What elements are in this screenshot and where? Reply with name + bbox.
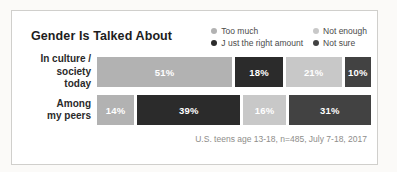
bar-segment-too-much: 14% (97, 95, 134, 125)
bar-segment-not-sure: 31% (289, 95, 371, 125)
bar-segment-not-enough: 21% (286, 57, 342, 87)
category-label-line1: In culture / (31, 53, 91, 66)
category-label-line1: Among (31, 98, 91, 111)
bar-segment-not-enough: 16% (243, 95, 285, 125)
legend-item-not-enough: Not enough (313, 26, 367, 36)
category-label: In culture / society today (31, 53, 91, 91)
bar-segment-not-sure: 10% (345, 57, 372, 87)
legend-item-just-right-amount: J ust the right amount (211, 38, 303, 48)
legend-label: Not sure (323, 38, 355, 48)
chart-title: Gender Is Talked About (31, 26, 172, 43)
chart-card: Gender Is Talked About Too much Not enou… (11, 10, 378, 165)
bar-segment-too-much: 51% (97, 57, 232, 87)
bar-row-among-peers: Among my peers 14% 39% 16% 31% (31, 95, 371, 125)
legend-dot-icon (313, 28, 319, 34)
stacked-bar: 14% 39% 16% 31% (97, 95, 371, 125)
chart-header: Gender Is Talked About Too much Not enou… (31, 26, 371, 48)
stacked-bar-chart: In culture / society today 51% 18% 21% 1… (31, 57, 371, 125)
bar-segment-just-right-amount: 18% (235, 57, 283, 87)
legend-label: J ust the right amount (221, 38, 303, 48)
category-label-line2: my peers (31, 110, 91, 123)
legend-item-too-much: Too much (211, 26, 303, 36)
bar-segment-just-right-amount: 39% (137, 95, 240, 125)
bar-row-culture-society: In culture / society today 51% 18% 21% 1… (31, 57, 371, 87)
source-note: U.S. teens age 13-18, n=485, July 7-18, … (31, 134, 367, 144)
chart-legend: Too much Not enough J ust the right amou… (211, 26, 367, 48)
legend-dot-icon (211, 28, 217, 34)
category-label: Among my peers (31, 98, 91, 123)
legend-dot-icon (211, 40, 217, 46)
legend-dot-icon (313, 40, 319, 46)
legend-label: Too much (221, 26, 258, 36)
category-label-line2: society today (31, 66, 91, 91)
stacked-bar: 51% 18% 21% 10% (97, 57, 371, 87)
legend-item-not-sure: Not sure (313, 38, 367, 48)
legend-label: Not enough (323, 26, 367, 36)
